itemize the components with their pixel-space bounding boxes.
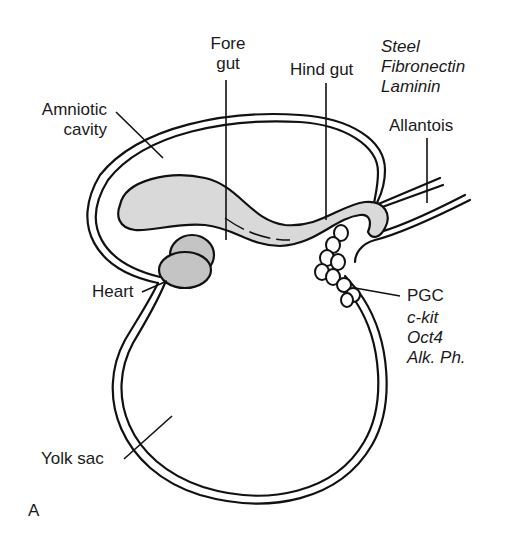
label-hind-gut: Hind gut <box>290 60 353 80</box>
marker-laminin: Laminin <box>381 77 465 97</box>
yolk-sac-inner <box>121 280 378 496</box>
label-fore-gut-line1: Fore <box>206 34 250 54</box>
label-fore-gut-line2: gut <box>206 54 250 74</box>
marker-oct4: Oct4 <box>407 328 466 348</box>
label-allantois: Allantois <box>389 116 453 136</box>
allantois-markers: Steel Fibronectin Laminin <box>381 37 465 97</box>
marker-c-kit: c-kit <box>407 308 466 328</box>
panel-label: A <box>28 501 39 521</box>
pgc-markers: c-kit Oct4 Alk. Ph. <box>407 308 466 368</box>
label-yolk-sac: Yolk sac <box>41 449 104 469</box>
marker-fibronectin: Fibronectin <box>381 57 465 77</box>
label-amniotic-cavity: Amniotic cavity <box>29 100 107 140</box>
label-fore-gut: Fore gut <box>206 34 250 74</box>
label-heart: Heart <box>92 282 134 302</box>
label-pgc: PGC <box>407 286 444 306</box>
yolk-sac-outer <box>113 276 387 503</box>
pgc-cluster <box>315 225 360 307</box>
marker-steel: Steel <box>381 37 465 57</box>
label-amniotic-line1: Amniotic <box>29 100 107 120</box>
label-amniotic-line2: cavity <box>29 120 107 140</box>
marker-alk-ph: Alk. Ph. <box>407 348 466 368</box>
heart-shape <box>159 235 214 288</box>
